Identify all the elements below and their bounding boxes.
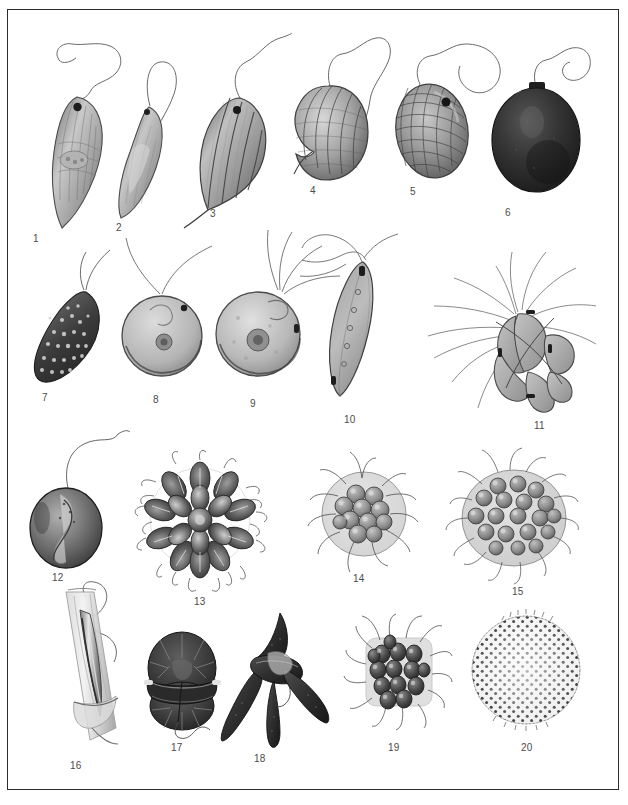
figure-caption-1: 1 [33, 233, 39, 244]
figure-15 [442, 448, 587, 588]
figure-caption-20: 20 [521, 742, 533, 753]
figure-caption-14: 14 [353, 573, 365, 584]
figure-11 [400, 248, 600, 418]
figure-caption-5: 5 [410, 186, 416, 197]
figure-layer: 1 2 [0, 0, 628, 805]
figure-caption-3: 3 [210, 208, 216, 219]
figure-caption-16: 16 [70, 760, 82, 771]
figure-caption-9: 9 [250, 398, 256, 409]
figure-caption-13: 13 [194, 596, 206, 607]
figure-caption-10: 10 [344, 414, 356, 425]
figure-caption-7: 7 [42, 392, 48, 403]
figure-13 [128, 446, 273, 596]
figure-caption-8: 8 [153, 394, 159, 405]
figure-caption-17: 17 [171, 742, 183, 753]
figure-14 [302, 452, 427, 577]
figure-18 [218, 605, 338, 755]
figure-caption-19: 19 [388, 742, 400, 753]
figure-caption-6: 6 [505, 207, 511, 218]
figure-20 [462, 606, 592, 736]
figure-19 [338, 612, 463, 737]
figure-caption-4: 4 [310, 185, 316, 196]
figure-caption-11: 11 [534, 420, 545, 431]
illustration-plate: 1 2 [0, 0, 628, 805]
figure-6 [470, 30, 610, 210]
figure-caption-15: 15 [512, 586, 524, 597]
figure-caption-18: 18 [254, 753, 266, 764]
